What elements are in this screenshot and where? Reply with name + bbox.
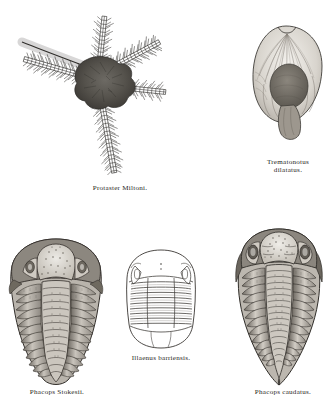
figure-protaster xyxy=(0,2,190,184)
figure-trilobite-left xyxy=(4,236,108,392)
caption-trilobite-left: Phacops Stokesii. xyxy=(2,388,112,396)
figure-trilobite-right xyxy=(228,226,330,388)
caption-illaenus: Illaenus barriensis. xyxy=(106,354,216,362)
fossil-plate: Protaster Miltoni. xyxy=(0,0,332,396)
figure-illaenus xyxy=(118,248,204,352)
caption-trilobite-right: Phacops caudatus. xyxy=(234,388,332,396)
caption-line-2: dilatatus. xyxy=(274,166,302,174)
caption-line-1: Trematonotus xyxy=(267,158,309,166)
protaster-disc xyxy=(75,57,135,110)
caption-protaster: Protaster Miltoni. xyxy=(50,184,190,192)
figure-trematonotus xyxy=(248,22,326,154)
caption-trematonotus: Trematonotusdilatatus. xyxy=(252,158,324,175)
